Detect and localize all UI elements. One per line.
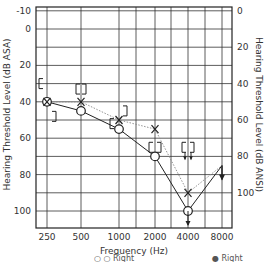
y-tick-left: 40 [20, 97, 32, 107]
no-response-arrowhead [186, 221, 191, 226]
right-air-marker [151, 152, 160, 161]
y-tick-right: 0 [237, 6, 243, 16]
x-tick: 250 [38, 232, 55, 242]
x-tick: 2000 [144, 232, 167, 242]
left-bone-bracket [157, 142, 161, 152]
left-bone-bracket [82, 84, 86, 94]
right-air-marker [115, 125, 124, 134]
y-tick-right: 80 [237, 151, 249, 161]
right-air-marker [77, 107, 86, 116]
x-tick: 500 [72, 232, 89, 242]
y-tick-left: 60 [20, 133, 32, 143]
left-bone-bracket [123, 106, 127, 116]
y-tick-right: 20 [237, 42, 249, 52]
y-tick-right: 60 [237, 115, 249, 125]
left-air-line [47, 102, 222, 193]
y-axis-title-left: Hearing Threshold Level (dB ASA) [2, 38, 12, 190]
y-tick-right: 40 [237, 79, 249, 89]
right-bone-bracket [182, 142, 186, 152]
audiogram-chart: -100204060801000204060801002505001000200… [0, 0, 264, 262]
no-response-arrowhead [189, 156, 193, 160]
no-response-arrowhead [183, 156, 187, 160]
y-tick-left: 80 [20, 170, 32, 180]
y-tick-right: 100 [237, 188, 254, 198]
x-tick: 4000 [177, 232, 200, 242]
left-bone-bracket [190, 142, 194, 152]
x-tick: 1000 [108, 232, 131, 242]
x-tick: 8000 [211, 232, 234, 242]
y-tick-left: -10 [16, 6, 31, 16]
no-response-arrowhead [219, 175, 225, 181]
legend-right-label: ○ ○ Right [94, 254, 134, 262]
y-tick-left: 0 [25, 24, 31, 34]
plot-frame [36, 7, 232, 228]
y-axis-title-right: Hearing Threshold Level (dB ANSI) [254, 37, 264, 192]
legend-right-label-2: ● Right [212, 254, 243, 262]
y-tick-left: 20 [20, 60, 32, 70]
y-tick-left: 100 [14, 206, 31, 216]
right-bone-bracket [149, 142, 153, 152]
right-bone-bracket [76, 84, 80, 94]
